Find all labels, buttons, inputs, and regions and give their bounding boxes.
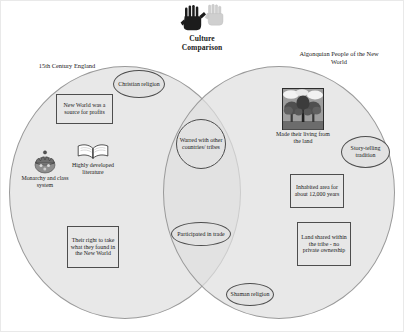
literature-caption: Highly developed literature (68, 162, 118, 175)
venn-label-right: Algonquian People of the New World (278, 50, 400, 66)
node-warred-with-other-countries-tribes[interactable]: Warred with other countries/ tribes (176, 119, 226, 169)
node-highly-developed-literature[interactable]: Highly developed literature (68, 143, 118, 175)
land-caption: Made their living from the land (275, 131, 331, 144)
page-title-line2: Comparison (137, 44, 267, 53)
diagram-canvas: Culture Comparison 15th Century England … (0, 0, 404, 332)
crown-icon (32, 150, 58, 174)
node-land-shared-within-the-tribe-no-private-ownership[interactable]: Land shared within the tribe - no privat… (297, 222, 351, 266)
node-made-their-living-from-the-land[interactable]: Made their living from the land (275, 88, 331, 144)
node-shaman-religion[interactable]: Shaman religion (226, 283, 274, 306)
node-their-right-to-take-what-they-found[interactable]: Their right to take what they found in t… (67, 226, 119, 268)
venn-label-left: 15th Century England (12, 62, 122, 70)
venn-label-right-line2: World (278, 58, 400, 66)
diagram-title-block: Culture Comparison (137, 4, 267, 52)
node-story-telling-tradition[interactable]: Story-telling tradition (341, 136, 390, 168)
node-inhabited-area-for-about-12000-years[interactable]: Inhabited area for about 12,000 years (290, 174, 344, 208)
monarchy-caption: Monarchy and class system (18, 175, 72, 188)
forest-landscape-icon (282, 88, 324, 130)
venn-label-right-line1: Algonquian People of the New (278, 50, 400, 58)
node-christian-religion[interactable]: Christian religion (113, 70, 165, 98)
node-new-world-was-a-source-for-profits[interactable]: New World was a source for profits (56, 94, 113, 124)
node-monarchy-and-class-system[interactable]: Monarchy and class system (18, 150, 72, 188)
node-participated-in-trade[interactable]: Participated in trade (171, 222, 231, 246)
handprints-icon (179, 4, 225, 34)
open-book-icon (76, 143, 110, 161)
